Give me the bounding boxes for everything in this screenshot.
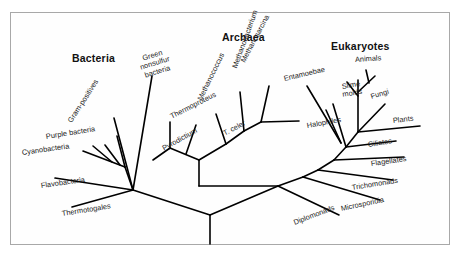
edge-cyanobacteria [83, 151, 125, 167]
edge-euk-node2 [303, 170, 318, 177]
edge-crenarchaeota [170, 148, 199, 160]
root-to-archaea-hub [210, 186, 278, 215]
edge-fungi [358, 104, 385, 132]
edge-methanosarcina [261, 86, 269, 122]
edge-euk-crown [346, 132, 358, 147]
bacteria-heading: Bacteria [72, 52, 115, 64]
edge-gram-positives [114, 118, 133, 190]
edge-plants [358, 126, 420, 132]
edge-euk-node3 [318, 160, 334, 170]
edge-euk-node1 [278, 177, 303, 186]
edge-green-nonsulfur [133, 76, 152, 190]
eukaryotes-heading: Eukaryotes [331, 40, 390, 52]
root-to-bacteria-hub [133, 190, 210, 215]
edge-cyano-tip2 [93, 146, 112, 162]
edge-euk-node4 [334, 147, 346, 160]
edge-euryarchaeota [199, 144, 226, 160]
edge-halophiles [261, 121, 299, 122]
phylogenetic-tree-figure: BacteriaArchaeaEukaryotes Gram-positives… [0, 0, 459, 261]
